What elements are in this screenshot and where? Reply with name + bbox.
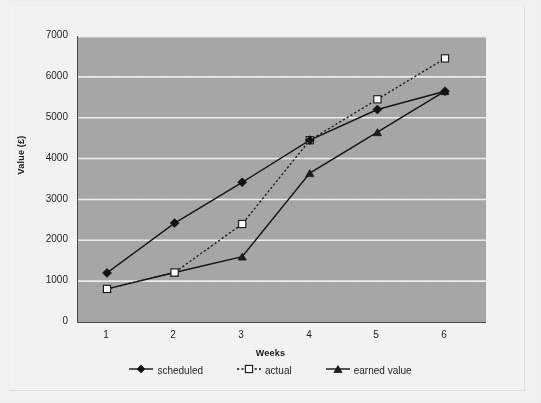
filled-diamond-marker-icon [129, 364, 153, 376]
open-square-marker-icon [237, 364, 261, 376]
series-markers-scheduled [103, 87, 450, 278]
y-tick-label-5000: 5000 [28, 111, 68, 122]
x-tick-label-3: 3 [226, 329, 256, 340]
x-tick-label-5: 5 [361, 329, 391, 340]
gridlines [78, 37, 486, 282]
series-line-earned-value [107, 91, 445, 289]
legend-item-earned-value[interactable]: earned value [326, 364, 412, 376]
legend-label-actual: actual [265, 365, 292, 376]
x-tick-label-1: 1 [91, 329, 121, 340]
y-tick-label-3000: 3000 [28, 193, 68, 204]
y-tick-label-2000: 2000 [28, 233, 68, 244]
legend-item-actual[interactable]: actual [237, 364, 292, 376]
x-axis-title: Weeks [0, 348, 541, 358]
series-markers-actual [103, 55, 448, 293]
y-axis-title: Value (£) [16, 115, 26, 195]
legend-label-scheduled: scheduled [157, 365, 203, 376]
y-tick-label-4000: 4000 [28, 152, 68, 163]
series-plot-svg [78, 36, 486, 322]
plot-area [77, 36, 486, 323]
y-tick-label-1000: 1000 [28, 274, 68, 285]
y-tick-label-6000: 6000 [28, 70, 68, 81]
chart-area: Value (£) 7000 6000 5000 4000 3000 2000 … [0, 0, 541, 403]
series-line-actual [107, 58, 445, 289]
legend-item-scheduled[interactable]: scheduled [129, 364, 203, 376]
y-tick-label-0: 0 [28, 315, 68, 326]
chart-screenshot: Value (£) 7000 6000 5000 4000 3000 2000 … [0, 0, 541, 403]
chart-legend: scheduled actual earne [0, 364, 541, 376]
legend-label-earned-value: earned value [354, 365, 412, 376]
x-tick-label-6: 6 [429, 329, 459, 340]
x-tick-label-2: 2 [158, 329, 188, 340]
x-tick-label-4: 4 [294, 329, 324, 340]
filled-triangle-marker-icon [326, 364, 350, 376]
y-tick-label-7000: 7000 [28, 29, 68, 40]
